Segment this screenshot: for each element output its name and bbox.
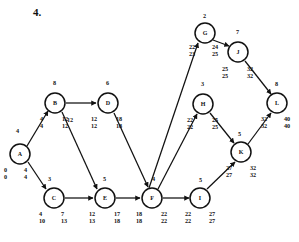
node-f-times-right: 2222 [161,211,167,225]
node-i-times-right: 2727 [209,211,215,225]
edge-weight-b-d: 8 [53,80,56,86]
node-i[interactable]: I [190,188,210,208]
edge-a-b [27,111,48,146]
node-j-times-left: 2525 [222,66,228,80]
edge-weight-c-e: 5 [103,176,106,182]
node-c[interactable]: C [44,188,64,208]
node-k-times-right: 3232 [250,165,256,179]
nodes-group: A B C D E F G [10,23,287,208]
node-b[interactable]: B [45,93,65,113]
node-k[interactable]: K [231,142,251,162]
node-i-late2: 27 [209,218,215,225]
node-g-late2: 25 [212,51,218,58]
node-f-times-left: 1818 [136,211,142,225]
node-f-early2: 18 [136,218,142,225]
edge-weight-f-h: 3 [201,81,204,87]
node-j-label: J [237,49,240,55]
node-l-times-left: 3232 [261,116,267,130]
node-f-label: F [150,195,154,201]
node-e-late2: 18 [114,218,120,225]
edge-weight-f-g: 2 [203,13,206,19]
node-b-times-left: 44 [40,116,43,130]
node-j-times-right: 3232 [247,66,253,80]
node-h-times-left: 2222 [187,117,193,131]
node-a-label: A [18,151,23,157]
node-e-early2: 13 [89,218,95,225]
edge-weight-i-k: 8 [275,81,278,87]
node-d-late2: 18 [116,123,122,130]
node-g-times-left: 2223 [189,44,195,58]
node-h-early2: 22 [187,124,193,131]
node-c-label: C [52,195,56,201]
node-a-early2: 0 [4,174,7,181]
edge-weight-e-f: 4 [152,176,155,182]
node-d[interactable]: D [98,93,118,113]
node-b-late2: 12 [62,123,68,130]
node-b-label: B [53,100,57,106]
node-e-label: E [103,195,107,201]
node-k-late2: 32 [250,172,256,179]
node-e[interactable]: E [95,188,115,208]
node-h-times-right: 2525 [212,117,218,131]
node-k-label: K [239,149,244,155]
node-a[interactable]: A [10,144,30,164]
edge-weight-g-j: 7 [236,29,239,35]
edge-k-l [248,113,271,144]
node-c-times-left: 410 [39,211,45,225]
node-k-early2: 27 [226,172,232,179]
node-i-times-left: 2222 [185,211,191,225]
node-a-times-right: 44 [24,167,27,181]
node-g-label: G [203,30,208,36]
node-l[interactable]: L [267,93,287,113]
network-diagram-canvas: 4. A [0,0,299,242]
node-l-times-right: 4040 [284,116,290,130]
node-i-early2: 22 [185,218,191,225]
node-l-label: L [275,100,279,106]
node-c-times-right: 713 [61,211,67,225]
node-k-times-left: 2727 [226,165,232,179]
node-d-times-right: 1818 [116,116,122,130]
node-l-late2: 40 [284,123,290,130]
node-e-times-left: 1213 [89,211,95,225]
node-c-late2: 13 [61,218,67,225]
node-d-times-left: 1212 [91,116,97,130]
node-f-late2: 22 [161,218,167,225]
node-g[interactable]: G [195,23,215,43]
node-c-early2: 10 [39,218,45,225]
node-j-early2: 25 [222,73,228,80]
node-a-late2: 4 [24,174,27,181]
edge-weight-a-c: 3 [48,176,51,182]
node-f[interactable]: F [142,188,162,208]
node-h-label: H [201,101,206,107]
node-b-times-right: 1212 [62,116,68,130]
edge-weight-h-k: 5 [238,131,241,137]
node-d-early2: 12 [91,123,97,130]
node-b-early2: 4 [40,123,43,130]
node-j-late2: 32 [247,73,253,80]
node-g-early2: 23 [189,51,195,58]
node-h[interactable]: H [193,94,213,114]
node-a-times-left: 00 [4,167,7,181]
node-j[interactable]: J [228,42,248,62]
node-d-label: D [106,100,111,106]
edge-weight-a-b: 4 [16,128,19,134]
diagram-svg: A B C D E F G [0,0,299,242]
edge-weight-d-f: 6 [106,80,109,86]
edge-weight-f-i: 5 [199,177,202,183]
node-h-late2: 25 [212,124,218,131]
node-l-early2: 32 [261,123,267,130]
edge-a-c [28,162,46,189]
node-g-times-right: 2425 [212,44,218,58]
node-e-times-right: 1718 [114,211,120,225]
